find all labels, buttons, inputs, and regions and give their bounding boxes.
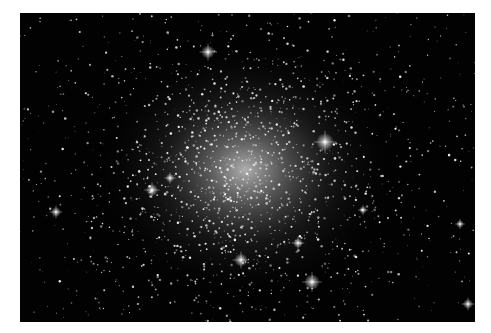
star-cluster-photo <box>20 13 475 322</box>
star-field <box>20 13 475 322</box>
